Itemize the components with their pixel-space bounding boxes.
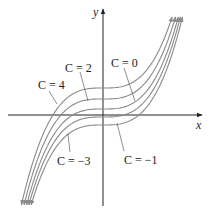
leader-c2	[80, 72, 88, 101]
leader-c4	[49, 91, 57, 104]
x-axis-label: x	[195, 118, 202, 132]
label-c4: C = 4	[38, 78, 65, 92]
y-axis-label: y	[92, 5, 99, 19]
diagram-canvas: y x C = 4 C = 2 C = 0 C = −1 C = −3	[0, 0, 212, 212]
curve-c2	[24, 17, 176, 205]
family-of-curves-diagram: y x C = 4 C = 2 C = 0 C = −1 C = −3	[0, 0, 212, 212]
label-cm1: C = −1	[124, 153, 158, 167]
solution-curves	[21, 17, 182, 205]
label-cm3: C = −3	[57, 154, 91, 168]
label-c0: C = 0	[111, 56, 138, 70]
label-c2: C = 2	[65, 61, 92, 75]
curve-c4	[21, 17, 172, 205]
curve-cminus1	[29, 17, 181, 205]
leader-cm3	[68, 134, 70, 152]
leader-cm1	[117, 123, 124, 151]
curve-cminus3	[31, 17, 182, 205]
curve-c0	[27, 17, 179, 205]
